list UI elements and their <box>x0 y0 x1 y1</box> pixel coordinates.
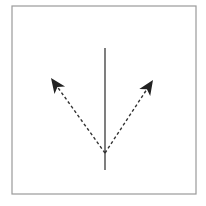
diagram-frame <box>12 6 196 194</box>
ray-diagram <box>0 0 206 206</box>
